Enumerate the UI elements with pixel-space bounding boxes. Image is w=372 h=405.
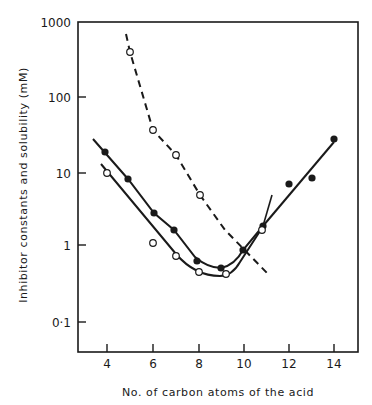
svg-text:8: 8 <box>195 357 203 371</box>
svg-text:6: 6 <box>149 357 157 371</box>
x-axis-title: No. of carbon atoms of the acid <box>122 386 314 399</box>
chart: 1000 100 10 1 0·1 4 6 8 10 12 14 No. of … <box>0 0 372 405</box>
svg-text:1: 1 <box>63 239 71 253</box>
filled-series-markers <box>101 135 337 271</box>
svg-text:1000: 1000 <box>40 16 71 30</box>
svg-text:10: 10 <box>236 357 251 371</box>
svg-text:10: 10 <box>56 167 71 181</box>
curves <box>93 34 334 276</box>
dashed-series-markers <box>127 49 204 199</box>
svg-text:0·1: 0·1 <box>52 316 71 330</box>
filled-series-line-right <box>263 142 334 226</box>
dashed-series-line <box>126 34 268 274</box>
svg-text:14: 14 <box>326 357 341 371</box>
svg-text:100: 100 <box>48 91 71 105</box>
y-axis <box>78 97 86 322</box>
y-tick-labels: 1000 100 10 1 0·1 <box>40 16 71 330</box>
svg-text:12: 12 <box>281 357 296 371</box>
x-tick-labels: 4 6 8 10 12 14 <box>103 357 341 371</box>
svg-text:4: 4 <box>103 357 111 371</box>
y-axis-title: Inhibitor constants and solubility (mM) <box>17 67 30 303</box>
x-axis <box>107 344 334 352</box>
